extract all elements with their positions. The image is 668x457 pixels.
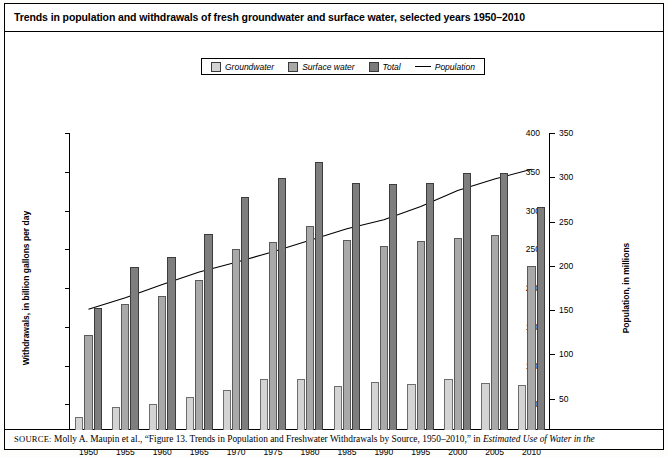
bar-surface-water[interactable] bbox=[269, 242, 277, 444]
bar-total[interactable] bbox=[167, 257, 175, 443]
source-box: SOURCE: Molly A. Maupin et al., “Figure … bbox=[4, 430, 664, 450]
y-axis-title-right: Population, in millions bbox=[619, 133, 633, 443]
bar-surface-water[interactable] bbox=[491, 235, 499, 443]
square-swatch-icon bbox=[211, 62, 221, 72]
y-tick-label-right: 300 bbox=[559, 172, 599, 182]
y-tick-left bbox=[65, 172, 70, 173]
bar-total[interactable] bbox=[130, 267, 138, 443]
y-tick-label-right: 50 bbox=[559, 394, 599, 404]
bar-surface-water[interactable] bbox=[232, 249, 240, 443]
bar-total[interactable] bbox=[241, 197, 249, 443]
y-tick-right bbox=[550, 177, 555, 178]
bar-total[interactable] bbox=[426, 183, 434, 443]
source-lead: SOURCE: bbox=[14, 434, 52, 444]
y-tick-right bbox=[550, 310, 555, 311]
y-axis-title-right-text: Population, in millions bbox=[621, 243, 631, 334]
bar-surface-water[interactable] bbox=[417, 241, 425, 443]
bar-total[interactable] bbox=[94, 308, 102, 443]
y-tick-label-right: 150 bbox=[559, 305, 599, 315]
title-box: Trends in population and withdrawals of … bbox=[4, 3, 664, 32]
legend-label: Groundwater bbox=[225, 62, 274, 72]
bar-surface-water[interactable] bbox=[121, 304, 129, 444]
bar-surface-water[interactable] bbox=[195, 280, 203, 443]
y-tick-label-left: 400 bbox=[500, 128, 540, 138]
chart-legend: Groundwater Surface water Total Populati… bbox=[201, 58, 485, 75]
y-tick-left bbox=[65, 133, 70, 134]
bar-total[interactable] bbox=[500, 173, 508, 443]
y-tick-right bbox=[550, 354, 555, 355]
bar-surface-water[interactable] bbox=[454, 238, 462, 443]
y-tick-left bbox=[65, 366, 70, 367]
y-tick-left bbox=[65, 288, 70, 289]
chart-frame: Groundwater Surface water Total Populati… bbox=[4, 32, 664, 430]
bar-total[interactable] bbox=[463, 173, 471, 443]
y-tick-label-right: 250 bbox=[559, 217, 599, 227]
bar-surface-water[interactable] bbox=[527, 266, 535, 443]
legend-item-population[interactable]: Population bbox=[415, 62, 475, 72]
y-tick-right bbox=[550, 222, 555, 223]
plot-area: 0501001502002503003504001950195519601965… bbox=[69, 133, 550, 444]
line-swatch-icon bbox=[415, 66, 431, 67]
bar-surface-water[interactable] bbox=[158, 296, 166, 443]
square-swatch-icon bbox=[288, 62, 298, 72]
square-swatch-icon bbox=[369, 62, 379, 72]
y-tick-right bbox=[550, 399, 555, 400]
y-tick-label-right: 200 bbox=[559, 261, 599, 271]
legend-item-total[interactable]: Total bbox=[369, 62, 401, 72]
bar-total[interactable] bbox=[537, 207, 545, 443]
bar-surface-water[interactable] bbox=[343, 240, 351, 443]
legend-label: Surface water bbox=[302, 62, 354, 72]
y-axis-title-left-text: Withdrawals, in billion gallons per day bbox=[21, 211, 31, 365]
y-tick-left bbox=[65, 404, 70, 405]
y-tick-right bbox=[550, 133, 555, 134]
bar-surface-water[interactable] bbox=[380, 246, 388, 443]
y-tick-left bbox=[65, 327, 70, 328]
y-tick-label-right: 350 bbox=[559, 128, 599, 138]
legend-item-groundwater[interactable]: Groundwater bbox=[211, 62, 274, 72]
source-body-italic: Estimated Use of Water in the bbox=[483, 434, 595, 444]
y-tick-label-right: 100 bbox=[559, 349, 599, 359]
bar-total[interactable] bbox=[278, 178, 286, 443]
bar-surface-water[interactable] bbox=[84, 335, 92, 444]
bar-total[interactable] bbox=[315, 162, 323, 443]
legend-label: Population bbox=[435, 62, 475, 72]
bar-total[interactable] bbox=[389, 184, 397, 443]
y-axis-title-left: Withdrawals, in billion gallons per day bbox=[19, 133, 33, 443]
source-note: SOURCE: Molly A. Maupin et al., “Figure … bbox=[14, 434, 595, 444]
legend-label: Total bbox=[383, 62, 401, 72]
legend-item-surface-water[interactable]: Surface water bbox=[288, 62, 354, 72]
y-tick-left bbox=[65, 211, 70, 212]
bar-surface-water[interactable] bbox=[306, 226, 314, 443]
bar-total[interactable] bbox=[204, 234, 212, 443]
y-tick-right bbox=[550, 266, 555, 267]
y-axis-right: 050100150200250300350 bbox=[549, 133, 550, 443]
bar-total[interactable] bbox=[352, 183, 360, 443]
page-title: Trends in population and withdrawals of … bbox=[14, 11, 525, 23]
y-tick-left bbox=[65, 249, 70, 250]
source-body: Molly A. Maupin et al., “Figure 13. Tren… bbox=[52, 434, 483, 444]
